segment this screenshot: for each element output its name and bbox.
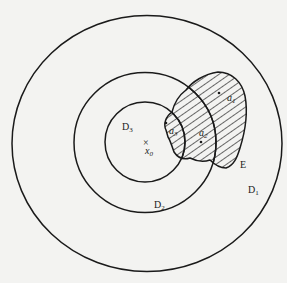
label-d3: D3 xyxy=(122,121,133,134)
label-d1: D1 xyxy=(248,184,259,197)
nested-domains-diagram: × a1 a2 a3 x0 D3 D2 D1 E xyxy=(0,0,287,283)
label-d2: D2 xyxy=(154,199,165,212)
label-x0: x0 xyxy=(144,145,153,158)
point-a2-dot xyxy=(200,141,203,144)
point-a3-dot xyxy=(165,122,168,125)
label-e: E xyxy=(240,159,246,170)
set-e-shaded-region xyxy=(74,72,246,213)
point-a1-dot xyxy=(218,92,221,95)
